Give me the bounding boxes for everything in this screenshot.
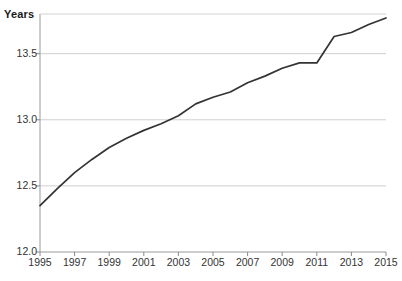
x-axis-tick-label: 2015 <box>366 256 402 268</box>
axis-lines <box>40 14 386 252</box>
y-axis-tick-label: 12.5 <box>1 179 37 191</box>
y-axis-ticks <box>36 54 40 252</box>
plot-area <box>0 0 402 281</box>
data-series-line <box>40 18 386 206</box>
line-chart: Years 12.012.513.013.5 19951997199920012… <box>0 0 402 281</box>
y-axis-tick-label: 13.5 <box>1 47 37 59</box>
gridlines <box>40 54 386 186</box>
y-axis-tick-label: 13.0 <box>1 113 37 125</box>
